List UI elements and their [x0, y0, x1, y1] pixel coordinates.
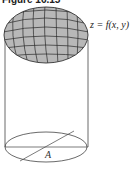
region-label: A: [45, 149, 51, 160]
surface-equation-label: z = f(x, y): [90, 19, 129, 30]
surface-cap: [3, 3, 89, 65]
